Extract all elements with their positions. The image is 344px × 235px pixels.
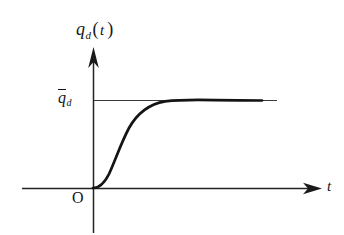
overbar-icon <box>58 89 66 90</box>
y-axis-label-open-paren: ( <box>93 19 99 39</box>
asymptote-value-subscript: d <box>67 97 72 108</box>
y-axis-label-variable: q <box>76 19 85 39</box>
y-axis-label-subscript: d <box>86 29 92 41</box>
x-axis-label: t <box>327 179 331 194</box>
asymptote-value-variable: q <box>58 90 66 106</box>
asymptote-value-label: qd <box>58 90 72 108</box>
response-curve <box>93 100 262 188</box>
origin-label: O <box>72 190 84 206</box>
y-axis-label-argument: t <box>100 22 104 38</box>
y-axis-label: qd(t) <box>76 20 113 41</box>
figure-container: qd(t) qd O t <box>0 0 344 235</box>
plot-canvas <box>0 0 344 235</box>
asymptote-value-glyph: q <box>58 89 66 106</box>
y-axis-label-close-paren: ) <box>107 19 113 39</box>
